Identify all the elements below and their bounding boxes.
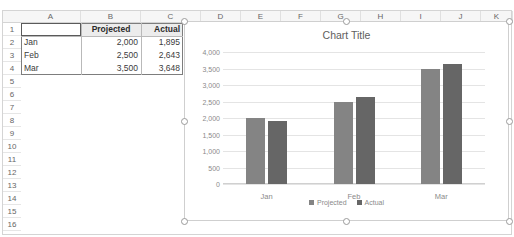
- legend-item-projected[interactable]: Projected: [309, 198, 347, 206]
- cell-B2-projected[interactable]: 2,000: [81, 36, 141, 49]
- cell-B1-projected-header[interactable]: Projected: [81, 23, 141, 36]
- resize-handle-nw[interactable]: [181, 18, 188, 25]
- cell-C1-actual-header[interactable]: Actual: [141, 23, 183, 36]
- row-header-13[interactable]: 13: [3, 179, 21, 192]
- resize-handle-e[interactable]: [506, 118, 513, 125]
- y-axis-label-2,500: 2,500: [186, 99, 220, 106]
- chart-legend[interactable]: ProjectedActual: [185, 198, 508, 206]
- row-header-7[interactable]: 7: [3, 101, 21, 114]
- bar-actual-feb[interactable]: [356, 97, 375, 184]
- resize-handle-sw[interactable]: [181, 218, 188, 225]
- y-axis-label-500: 500: [186, 165, 220, 172]
- resize-handle-ne[interactable]: [506, 18, 513, 25]
- chart-title[interactable]: Chart Title: [185, 29, 508, 41]
- row-header-12[interactable]: 12: [3, 166, 21, 179]
- plot-canvas: [223, 52, 485, 184]
- cell-A4-month[interactable]: Mar: [21, 62, 81, 75]
- y-axis-label-2,000: 2,000: [186, 115, 220, 122]
- y-axis-label-1,500: 1,500: [186, 132, 220, 139]
- row-header-10[interactable]: 10: [3, 140, 21, 153]
- resize-handle-n[interactable]: [343, 18, 350, 25]
- gridline-0: [223, 184, 485, 185]
- y-axis-label-3,500: 3,500: [186, 66, 220, 73]
- cell-C3-actual[interactable]: 2,643: [141, 49, 183, 62]
- cell-A2-month[interactable]: Jan: [21, 36, 81, 49]
- y-axis-label-1,000: 1,000: [186, 148, 220, 155]
- cell-C4-actual[interactable]: 3,648: [141, 62, 183, 75]
- row-header-2[interactable]: 2: [3, 36, 21, 49]
- legend-swatch-actual: [357, 200, 362, 205]
- bar-projected-feb[interactable]: [334, 102, 353, 185]
- bar-actual-jan[interactable]: [268, 121, 287, 184]
- legend-swatch-projected: [309, 200, 314, 205]
- row-header-5[interactable]: 5: [3, 75, 21, 88]
- cell-B4-projected[interactable]: 3,500: [81, 62, 141, 75]
- row-header-3[interactable]: 3: [3, 49, 21, 62]
- resize-handle-s[interactable]: [343, 218, 350, 225]
- legend-label-projected: Projected: [317, 199, 347, 206]
- chart-object[interactable]: Chart Title 05001,0001,5002,0002,5003,00…: [184, 21, 509, 221]
- row-header-16[interactable]: 16: [3, 218, 21, 231]
- row-header-6[interactable]: 6: [3, 88, 21, 101]
- row-header-1[interactable]: 1: [3, 23, 21, 36]
- table-header-separator: [21, 36, 183, 37]
- legend-label-actual: Actual: [365, 199, 384, 206]
- row-header-9[interactable]: 9: [3, 127, 21, 140]
- cut-off-ribbon-text: – – – – – – – – – –: [6, 0, 100, 2]
- table-column-separator-1: [141, 23, 142, 75]
- y-axis-label-4,000: 4,000: [186, 49, 220, 56]
- bar-projected-mar[interactable]: [421, 69, 440, 185]
- resize-handle-w[interactable]: [181, 118, 188, 125]
- cut-off-top-strip: – – – – – – – – – –: [0, 0, 514, 8]
- row-header-8[interactable]: 8: [3, 114, 21, 127]
- y-axis-label-3,000: 3,000: [186, 82, 220, 89]
- column-header-B[interactable]: B: [81, 11, 141, 23]
- row-header-14[interactable]: 14: [3, 192, 21, 205]
- cell-A3-month[interactable]: Feb: [21, 49, 81, 62]
- legend-item-actual[interactable]: Actual: [357, 198, 384, 206]
- y-axis-label-0: 0: [186, 181, 220, 188]
- row-header-4[interactable]: 4: [3, 62, 21, 75]
- bar-actual-mar[interactable]: [443, 64, 462, 184]
- active-cell-a1[interactable]: [21, 23, 81, 36]
- cell-B3-projected[interactable]: 2,500: [81, 49, 141, 62]
- bar-projected-jan[interactable]: [246, 118, 265, 184]
- column-header-A[interactable]: A: [21, 11, 81, 23]
- cell-C2-actual[interactable]: 1,895: [141, 36, 183, 49]
- table-column-separator-0: [81, 23, 82, 75]
- excel-worksheet-with-chart: – – – – – – – – – – ABCDEFGHIJK 12345678…: [0, 0, 514, 237]
- row-header-11[interactable]: 11: [3, 153, 21, 166]
- gridline-4,000: [223, 52, 485, 53]
- resize-handle-se[interactable]: [506, 218, 513, 225]
- row-header-15[interactable]: 15: [3, 205, 21, 218]
